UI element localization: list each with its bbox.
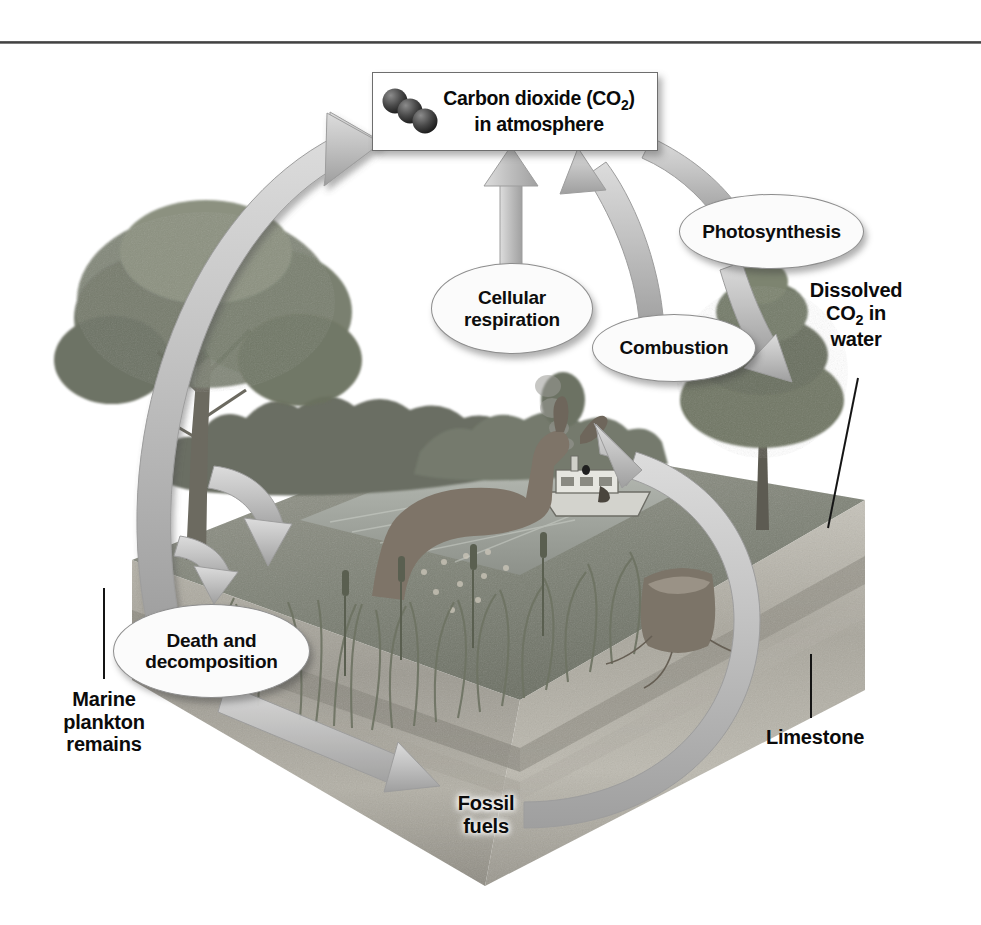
label-limestone: Limestone (740, 726, 890, 749)
co2-line1: Carbon dioxide (CO (443, 87, 621, 109)
label-fossil-fuels: Fossil fuels (418, 792, 554, 837)
figure-canvas: Carbon dioxide (CO2) in atmosphere Cellu… (0, 0, 981, 925)
cellular-respiration-label: Cellularrespiration (464, 287, 560, 330)
co2-line2: in atmosphere (474, 113, 603, 135)
photosynthesis-label: Photosynthesis (702, 221, 841, 242)
label-marine-plankton-remains: Marine plankton remains (28, 688, 180, 756)
co2-line1-end: ) (629, 87, 635, 109)
combustion-label: Combustion (620, 337, 729, 358)
callout-death-and-decomposition[interactable]: Death anddecomposition (113, 604, 310, 698)
callout-combustion[interactable]: Combustion (592, 314, 756, 382)
callout-cellular-respiration[interactable]: Cellularrespiration (431, 263, 593, 354)
callout-photosynthesis[interactable]: Photosynthesis (679, 194, 864, 269)
co2-atmosphere-box[interactable]: Carbon dioxide (CO2) in atmosphere (372, 72, 658, 151)
death-decomposition-label: Death anddecomposition (145, 630, 278, 673)
co2-subscript: 2 (621, 97, 629, 113)
label-dissolved-co2: Dissolved CO2 in water (786, 279, 926, 350)
co2-box-label: Carbon dioxide (CO2) in atmosphere (429, 87, 649, 136)
co2-molecule-icon (381, 87, 441, 135)
